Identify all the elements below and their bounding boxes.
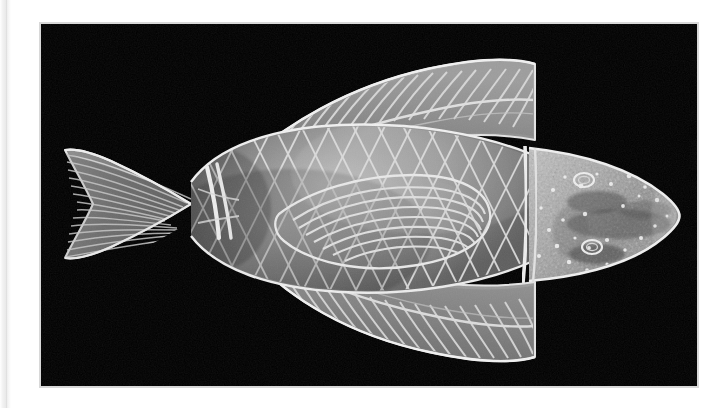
photo-grain-overlay: [41, 24, 697, 386]
photograph-black-field: [41, 24, 697, 386]
fish-effigy-illustration: [41, 24, 697, 386]
scan-gutter-line: [6, 0, 7, 408]
page-canvas: [0, 0, 718, 408]
